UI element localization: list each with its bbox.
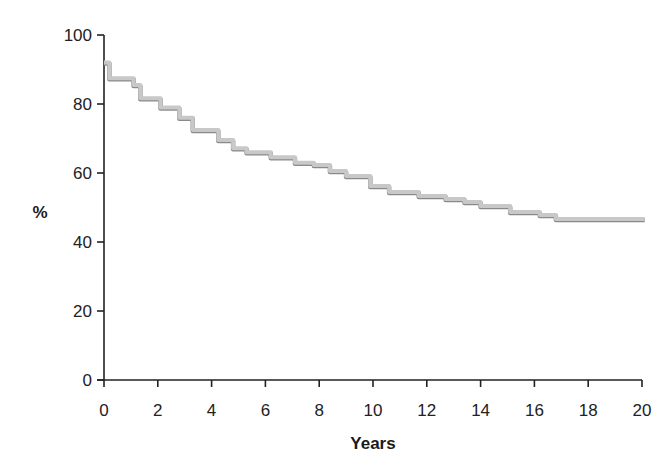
- x-tick-label: 6: [261, 401, 270, 420]
- x-tick-label: 4: [207, 401, 216, 420]
- y-tick-label: 40: [73, 233, 92, 252]
- x-tick-label: 16: [525, 401, 544, 420]
- x-tick-label: 18: [579, 401, 598, 420]
- y-tick-label: 60: [73, 164, 92, 183]
- y-axis-title: %: [32, 203, 47, 222]
- curve-line: [104, 63, 645, 219]
- survival-curve: [104, 63, 645, 220]
- y-axis: 020406080100: [64, 26, 104, 390]
- x-tick-label: 8: [314, 401, 323, 420]
- x-tick-label: 10: [364, 401, 383, 420]
- x-tick-label: 14: [471, 401, 490, 420]
- y-tick-label: 100: [64, 26, 92, 45]
- y-tick-label: 80: [73, 95, 92, 114]
- y-tick-label: 20: [73, 302, 92, 321]
- x-axis: 02468101214161820: [97, 380, 651, 420]
- x-tick-label: 12: [417, 401, 436, 420]
- y-tick-label: 0: [83, 371, 92, 390]
- x-tick-label: 20: [633, 401, 652, 420]
- x-tick-label: 2: [153, 401, 162, 420]
- x-tick-label: 0: [99, 401, 108, 420]
- survival-chart: 020406080100 02468101214161820 % Years: [0, 0, 670, 469]
- x-axis-title: Years: [350, 434, 395, 453]
